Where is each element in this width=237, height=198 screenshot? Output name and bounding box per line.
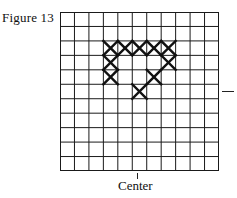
cross-stitch-x-icon — [103, 41, 117, 55]
cross-stitch-x-icon — [161, 55, 175, 69]
cross-stitch-x-icon — [147, 70, 161, 84]
cross-stitch-x-icon — [132, 41, 146, 55]
cross-stitch-x-icon — [103, 70, 117, 84]
side-center-marker — [222, 91, 234, 92]
figure-label: Figure 13 — [2, 10, 54, 26]
cross-stitch-x-icon — [161, 41, 175, 55]
cross-stitch-grid — [60, 12, 219, 171]
center-label: Center — [118, 178, 153, 194]
cross-stitch-x-icon — [118, 41, 132, 55]
grid-canvas — [60, 12, 219, 171]
cross-stitch-x-icon — [132, 84, 146, 98]
cross-stitch-x-icon — [103, 55, 117, 69]
cross-stitch-x-icon — [147, 41, 161, 55]
